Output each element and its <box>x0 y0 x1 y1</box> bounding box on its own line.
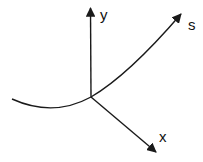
coordinate-diagram: y s x <box>0 0 203 162</box>
y-axis-label: y <box>100 6 108 23</box>
x-axis-arrow <box>91 97 156 152</box>
x-axis-label: x <box>159 128 167 145</box>
s-curve-arrow <box>12 14 181 108</box>
s-curve-label: s <box>188 16 196 33</box>
y-axis-arrow <box>91 8 92 97</box>
